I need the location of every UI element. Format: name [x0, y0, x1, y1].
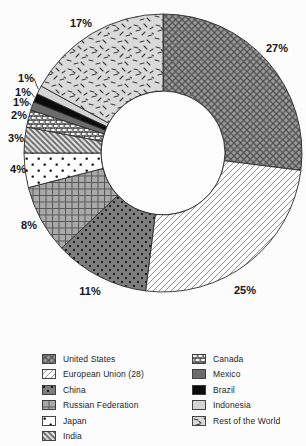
slice-percent-label: 1%	[15, 86, 31, 98]
donut-chart-svg: 27%25%11%8%4%3%2%1%1%1%17%	[0, 0, 306, 334]
legend-item: Mexico	[192, 367, 280, 383]
legend-label: Canada	[213, 354, 243, 364]
leader-line	[29, 103, 31, 106]
legend-swatch-solid-black	[192, 385, 206, 395]
slice-percent-label: 4%	[10, 163, 26, 175]
legend-label: Indonesia	[213, 400, 251, 410]
legend-label: India	[63, 431, 82, 441]
legend-swatch-grid	[42, 400, 56, 410]
leader-line	[31, 93, 35, 98]
legend-item: Canada	[192, 351, 280, 367]
legend-column-left: United StatesEuropean Union (28)ChinaRus…	[42, 351, 144, 444]
legend-item: India	[42, 429, 144, 445]
legend-label: European Union (28)	[63, 369, 144, 379]
legend-swatch-diag-back	[42, 431, 56, 441]
legend-item: Rest of the World	[192, 413, 280, 429]
legend-column-right: CanadaMexicoBrazilIndonesiaRest of the W…	[192, 351, 280, 429]
legend-swatch-crosshatch	[42, 354, 56, 364]
slice-percent-label: 17%	[70, 17, 92, 29]
legend-label: Japan	[63, 416, 87, 426]
legend-item: Indonesia	[192, 398, 280, 414]
legend-item: China	[42, 382, 144, 398]
legend-label: Brazil	[213, 385, 235, 395]
legend-item: Brazil	[192, 382, 280, 398]
slice-percent-label: 3%	[8, 132, 24, 144]
slice-percent-label: 27%	[266, 42, 288, 54]
legend-swatch-dots-white	[42, 416, 56, 426]
slice-percent-label: 8%	[21, 219, 37, 231]
legend-item: European Union (28)	[42, 367, 144, 383]
slice-percent-label: 25%	[234, 284, 256, 296]
legend-swatch-solid-light	[192, 400, 206, 410]
leader-line	[34, 79, 38, 90]
legend-swatch-squares	[192, 354, 206, 364]
legend-item: United States	[42, 351, 144, 367]
donut-hole	[101, 91, 225, 215]
legend-swatch-solid-dark	[192, 369, 206, 379]
legend-item: Russian Federation	[42, 398, 144, 414]
legend-label: China	[63, 385, 86, 395]
slice-percent-label: 1%	[18, 72, 34, 84]
chart-figure: 27%25%11%8%4%3%2%1%1%1%17% United States…	[0, 0, 306, 446]
legend-item: Japan	[42, 413, 144, 429]
slice-percent-label: 11%	[79, 285, 101, 297]
legend-label: United States	[63, 354, 115, 364]
legend-label: Russian Federation	[63, 400, 139, 410]
legend-swatch-dots-dark	[42, 385, 56, 395]
legend-swatch-speckle	[192, 416, 206, 426]
legend-swatch-diag-forward	[42, 369, 56, 379]
legend-label: Rest of the World	[213, 416, 280, 426]
slice-percent-label: 2%	[11, 109, 27, 121]
legend-label: Mexico	[213, 369, 241, 379]
